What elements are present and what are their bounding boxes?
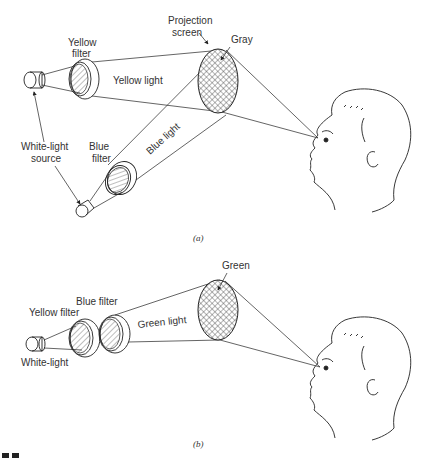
projection-screen-b: [198, 280, 238, 340]
panel-b: Green Blue filter Yellow filter Green li…: [21, 260, 411, 449]
label-blue-filter-2: filter: [92, 153, 112, 164]
label-projection-screen-1: Projection: [168, 15, 212, 26]
label-green-light: Green light: [137, 314, 187, 330]
label-yellow-filter-1: Yellow: [68, 37, 97, 48]
label-green: Green: [222, 260, 250, 271]
label-blue-filter-b: Blue filter: [76, 296, 118, 307]
blue-filter-b: [99, 315, 130, 353]
caption-a: (a): [193, 233, 204, 243]
observer-head-b: [310, 317, 411, 440]
label-blue-filter-1: Blue: [89, 141, 109, 152]
label-yellow-filter-b: Yellow filter: [29, 307, 80, 318]
projection-screen-a: [198, 49, 238, 113]
caption-b: (b): [193, 439, 204, 449]
label-yellow-light: Yellow light: [113, 75, 163, 86]
yellow-filter-b: [69, 319, 100, 357]
label-white-light: White-light: [21, 357, 68, 368]
white-light-source-b: [26, 337, 45, 351]
label-yellow-filter-2: filter: [72, 48, 92, 59]
white-light-source-top: [24, 72, 45, 88]
yellow-filter-a: [69, 59, 99, 99]
label-white-light-source-2: source: [31, 153, 61, 164]
figure-number-fragment: [2, 453, 9, 458]
observer-head-a: [310, 89, 411, 212]
figure-number-fragment-2: [12, 453, 19, 458]
label-gray: Gray: [231, 34, 253, 45]
panel-a: Projection screen Gray Yellow filter Yel…: [21, 15, 411, 243]
color-mixing-diagram: Projection screen Gray Yellow filter Yel…: [0, 0, 432, 458]
label-projection-screen-2: screen: [172, 27, 202, 38]
label-white-light-source-1: White-light: [21, 141, 68, 152]
